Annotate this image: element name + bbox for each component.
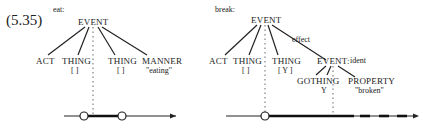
right-edge-label-effect: effect: [292, 36, 310, 44]
example-number: (5.35): [6, 13, 42, 28]
right-node-property-sub: "broken": [355, 87, 384, 95]
right-verb-label: break:: [215, 6, 235, 14]
right-node-event-qualifier: ident: [350, 57, 366, 65]
left-tree-edges: [48, 27, 147, 55]
right-node-thing-2: THING: [272, 57, 301, 66]
left-verb-label: eat:: [53, 6, 65, 14]
right-node-property: PROPERTY: [348, 77, 395, 86]
right-node-thing-1-sub: [ ]: [242, 67, 249, 75]
left-node-thing-2-sub: [ ]: [117, 67, 124, 75]
left-node-act: ACT: [36, 57, 55, 66]
right-node-gothing-sub: Y: [321, 87, 327, 95]
right-start-circle: [261, 112, 269, 120]
right-node-act: ACT: [209, 57, 228, 66]
right-node-thing-2-sub: [ Y ]: [278, 67, 293, 75]
left-node-thing-2: THING: [108, 57, 137, 66]
right-root-node: EVENT: [251, 16, 282, 25]
left-end-circle: [118, 112, 126, 120]
left-node-thing-1-sub: [ ]: [71, 67, 78, 75]
left-timeline: [64, 112, 176, 120]
right-node-gothing: GOTHING: [297, 77, 339, 86]
left-start-circle: [80, 112, 88, 120]
right-node-event: EVENT:: [317, 57, 350, 66]
left-root-node: EVENT: [78, 18, 109, 27]
right-timeline: [226, 112, 419, 120]
left-node-manner-sub: "eating": [146, 67, 172, 75]
right-node-thing-1: THING: [233, 57, 262, 66]
left-node-thing-1: THING: [62, 57, 91, 66]
left-node-manner: MANNER: [142, 57, 182, 66]
